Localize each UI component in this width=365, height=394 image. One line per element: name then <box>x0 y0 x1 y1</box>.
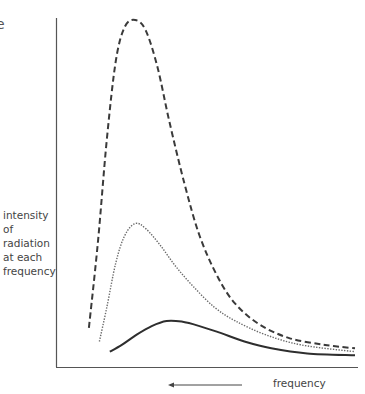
series-line-lowest-temperature <box>110 321 355 356</box>
series-layer <box>89 20 355 355</box>
series-line-middle-temperature <box>99 223 355 351</box>
x-direction-arrow <box>168 383 242 388</box>
chart-canvas <box>0 0 365 394</box>
arrow-head-icon <box>168 383 174 388</box>
series-line-highest-temperature <box>89 20 355 348</box>
